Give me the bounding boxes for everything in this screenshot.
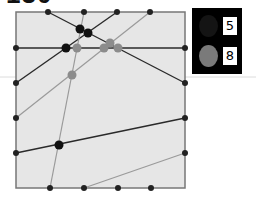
edge-dot[interactable]	[81, 185, 87, 191]
gray-intersection-dot[interactable]	[106, 39, 115, 48]
edge-dot[interactable]	[148, 185, 154, 191]
edge-dot[interactable]	[114, 9, 120, 15]
dark-intersection-dot[interactable]	[76, 25, 85, 34]
edge-dot[interactable]	[13, 80, 19, 86]
gray-intersection-dot[interactable]	[114, 44, 123, 53]
edge-dot[interactable]	[81, 9, 87, 15]
edge-dot[interactable]	[13, 115, 19, 121]
edge-dot[interactable]	[182, 80, 188, 86]
edge-dot[interactable]	[182, 150, 188, 156]
edge-dot[interactable]	[13, 45, 19, 51]
edge-dot[interactable]	[45, 9, 51, 15]
gray-intersection-dot[interactable]	[68, 71, 77, 80]
dark-intersection-dot[interactable]	[62, 44, 71, 53]
edge-dot[interactable]	[182, 115, 188, 121]
gray-intersection-dot[interactable]	[73, 44, 82, 53]
edge-dot[interactable]	[147, 9, 153, 15]
dark-intersection-dot[interactable]	[55, 141, 64, 150]
gray-count: 8	[223, 47, 237, 65]
edge-dot[interactable]	[47, 185, 53, 191]
dark-count: 5	[223, 17, 237, 35]
dark-intersection-dot[interactable]	[84, 29, 93, 38]
gray-dot-icon	[199, 45, 218, 67]
edge-dot[interactable]	[13, 150, 19, 156]
edge-dot[interactable]	[115, 185, 121, 191]
dark-dot-icon	[199, 15, 218, 37]
edge-dot[interactable]	[182, 45, 188, 51]
legend-panel: 5 8	[192, 8, 242, 74]
